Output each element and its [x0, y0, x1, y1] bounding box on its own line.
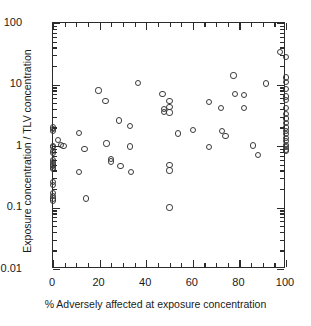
y-axis-tick-right	[277, 269, 284, 270]
y-axis-minor-tick	[53, 217, 57, 218]
x-axis-minor-tick-top	[88, 23, 89, 27]
data-point	[128, 169, 134, 175]
y-axis-minor-tick	[53, 87, 57, 88]
y-axis-title: Exposure concentration / TLV concentrati…	[21, 28, 33, 274]
x-axis-minor-tick-top	[204, 23, 205, 27]
y-axis-minor-tick-right	[280, 29, 284, 30]
data-point	[108, 158, 114, 164]
y-axis-minor-tick-right	[280, 152, 284, 153]
data-point	[135, 80, 141, 86]
data-point	[190, 127, 196, 133]
data-point	[83, 195, 89, 201]
x-axis-minor-tick	[204, 263, 205, 267]
y-axis-minor-tick-right	[280, 90, 284, 91]
data-point	[60, 143, 66, 149]
y-axis-minor-tick-right	[280, 250, 284, 251]
x-axis-minor-tick	[228, 263, 229, 267]
x-axis-minor-tick	[111, 263, 112, 267]
y-axis-minor-tick-right	[280, 213, 284, 214]
y-axis-minor-tick-right	[280, 103, 284, 104]
y-axis-minor-tick-right	[280, 47, 284, 48]
x-axis-minor-tick	[123, 263, 124, 267]
y-axis-minor-tick-right	[280, 232, 284, 233]
x-axis-tick	[193, 260, 194, 267]
x-axis-minor-tick-top	[135, 23, 136, 27]
y-axis-minor-tick	[53, 98, 57, 99]
y-axis-tick	[53, 208, 60, 209]
y-axis-minor-tick	[53, 55, 57, 56]
y-axis-minor-tick-right	[280, 160, 284, 161]
y-axis-minor-tick	[53, 103, 57, 104]
y-axis-minor-tick-right	[280, 149, 284, 150]
x-axis-tick-top	[53, 23, 54, 30]
data-point	[166, 167, 172, 173]
y-axis-minor-tick	[53, 240, 57, 241]
y-axis-minor-tick-right	[280, 189, 284, 190]
y-axis-minor-tick-right	[280, 178, 284, 179]
x-axis-tick-label: 80	[232, 277, 244, 288]
y-axis-minor-tick	[53, 213, 57, 214]
x-axis-tick-top	[100, 23, 101, 30]
x-axis-tick	[53, 260, 54, 267]
y-axis-minor-tick	[53, 221, 57, 222]
y-axis-minor-tick-right	[280, 240, 284, 241]
y-axis-minor-tick	[53, 210, 57, 211]
data-point	[102, 98, 108, 104]
x-axis-minor-tick-top	[251, 23, 252, 27]
y-axis-minor-tick-right	[280, 66, 284, 67]
y-axis-minor-tick-right	[280, 226, 284, 227]
y-axis-minor-tick	[53, 127, 57, 128]
y-axis-minor-tick	[53, 117, 57, 118]
y-axis-minor-tick-right	[280, 109, 284, 110]
y-axis-minor-tick-right	[280, 217, 284, 218]
y-axis-minor-tick-right	[280, 42, 284, 43]
y-axis-tick-right	[277, 208, 284, 209]
y-axis-minor-tick	[53, 232, 57, 233]
y-axis-minor-tick-right	[280, 221, 284, 222]
y-axis-minor-tick	[53, 42, 57, 43]
x-axis-minor-tick-top	[228, 23, 229, 27]
x-axis-tick-top	[193, 23, 194, 30]
y-axis-minor-tick-right	[280, 55, 284, 56]
y-axis-minor-tick-right	[280, 87, 284, 88]
data-point	[166, 204, 172, 210]
x-axis-minor-tick	[170, 263, 171, 267]
y-axis-minor-tick	[53, 109, 57, 110]
y-axis-minor-tick-right	[280, 210, 284, 211]
x-axis-minor-tick-top	[65, 23, 66, 27]
data-point	[50, 197, 56, 203]
y-axis-minor-tick-right	[280, 165, 284, 166]
x-axis-tick-top	[146, 23, 147, 30]
x-axis-minor-tick	[88, 263, 89, 267]
x-axis-tick-label: 100	[276, 277, 294, 288]
x-axis-tick	[100, 260, 101, 267]
data-point	[206, 144, 212, 150]
y-axis-minor-tick	[53, 66, 57, 67]
y-axis-minor-tick	[53, 37, 57, 38]
data-point	[81, 146, 87, 152]
y-axis-minor-tick-right	[280, 156, 284, 157]
scatter-plot-figure: 0.010.1110100020406080100 % Adversely af…	[0, 0, 311, 326]
y-axis-minor-tick	[53, 165, 57, 166]
data-point	[241, 92, 247, 98]
y-axis-minor-tick	[53, 160, 57, 161]
x-axis-minor-tick	[274, 263, 275, 267]
x-axis-minor-tick-top	[111, 23, 112, 27]
y-axis-minor-tick	[53, 178, 57, 179]
x-axis-minor-tick	[135, 263, 136, 267]
y-axis-minor-tick	[53, 189, 57, 190]
data-point	[166, 109, 172, 115]
data-points-layer	[53, 23, 284, 267]
data-point	[263, 80, 269, 86]
y-axis-tick	[53, 85, 60, 86]
data-point	[241, 105, 247, 111]
y-axis-minor-tick	[53, 33, 57, 34]
y-axis-minor-tick-right	[280, 94, 284, 95]
data-point	[76, 130, 82, 136]
data-point	[250, 142, 256, 148]
data-point	[127, 123, 133, 129]
y-axis-minor-tick-right	[280, 170, 284, 171]
data-point	[95, 87, 101, 93]
x-axis-tick	[239, 260, 240, 267]
y-axis-minor-tick-right	[280, 117, 284, 118]
